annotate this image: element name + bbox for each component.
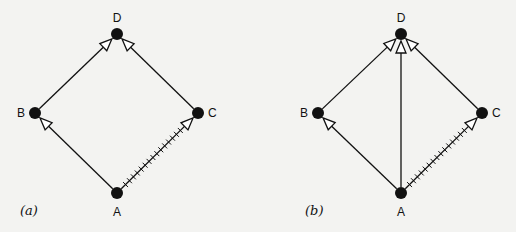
node-B: B — [17, 106, 41, 120]
edge-B-D — [322, 39, 396, 109]
node-label: C — [208, 106, 217, 120]
node-dot-icon — [29, 107, 41, 119]
node-label: A — [113, 205, 121, 219]
node-C: C — [192, 106, 217, 120]
edge-A-B — [323, 118, 397, 189]
node-dot-icon — [192, 107, 204, 119]
panel-b-graph: DBCA(b) — [300, 11, 501, 219]
edge-C-D — [122, 39, 194, 109]
edge-A-C — [405, 118, 477, 189]
edge-A-B — [40, 118, 113, 189]
edge-A-C — [121, 118, 193, 189]
diagram-figure: DBCA(a) DBCA(b) — [0, 0, 516, 232]
graph-diagrams: DBCA(a) DBCA(b) — [0, 0, 516, 232]
node-dot-icon — [395, 187, 407, 199]
node-dot-icon — [312, 107, 324, 119]
node-label: A — [397, 205, 405, 219]
edge-C-D — [406, 39, 478, 109]
node-A: A — [111, 187, 123, 219]
node-C: C — [476, 106, 501, 120]
edge-A-D — [396, 41, 406, 187]
panel-label: (a) — [20, 203, 38, 218]
arrowhead-icon — [396, 41, 406, 53]
node-D: D — [395, 11, 407, 40]
node-dot-icon — [476, 107, 488, 119]
node-label: D — [113, 11, 122, 25]
node-label: B — [300, 106, 308, 120]
node-label: D — [397, 11, 406, 25]
panel-label: (b) — [305, 203, 323, 218]
node-A: A — [395, 187, 407, 219]
node-dot-icon — [395, 28, 407, 40]
edge-B-D — [39, 39, 112, 109]
panel-a-graph: DBCA(a) — [17, 11, 217, 219]
node-D: D — [111, 11, 123, 40]
node-dot-icon — [111, 187, 123, 199]
node-label: B — [17, 106, 25, 120]
node-B: B — [300, 106, 324, 120]
node-label: C — [492, 106, 501, 120]
node-dot-icon — [111, 28, 123, 40]
